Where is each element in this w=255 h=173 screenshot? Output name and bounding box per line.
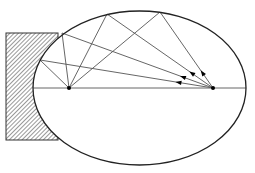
reflected-rays [40, 12, 213, 88]
arrowhead-icon [188, 70, 195, 77]
diagram-canvas [0, 0, 255, 173]
arrowhead-icon [179, 74, 186, 80]
right-focus-dot [211, 86, 215, 90]
hatched-block-fill [6, 33, 58, 140]
left-focus-dot [67, 86, 71, 90]
arrowhead-icon [199, 69, 206, 76]
ray-3 [62, 33, 213, 88]
hatched-block [6, 33, 58, 140]
ray-4 [40, 60, 213, 88]
ellipse-reflection-diagram [0, 0, 255, 173]
ray-2 [69, 14, 213, 88]
